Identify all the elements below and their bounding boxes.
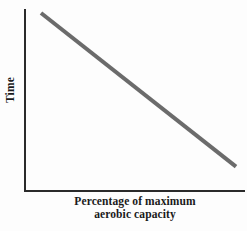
x-axis-title-line-1: Percentage of maximum [25,195,245,208]
x-axis-title: Percentage of maximum aerobic capacity [25,195,245,220]
y-axis-title: Time [4,54,16,126]
chart-figure: Time Percentage of maximum aerobic capac… [0,0,247,231]
x-axis-title-line-2: aerobic capacity [25,208,245,221]
